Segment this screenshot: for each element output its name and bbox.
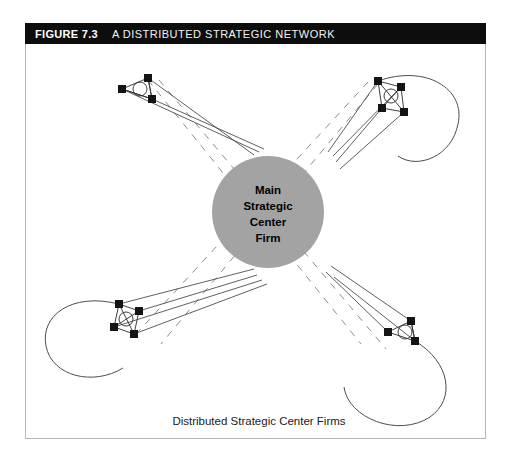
cluster-top-right bbox=[374, 77, 408, 116]
figure-number: FIGURE 7.3 bbox=[35, 28, 98, 40]
edge-hub-topleft-3 bbox=[152, 99, 264, 149]
node-bottom-left-4 bbox=[130, 330, 138, 338]
cluster-top-left-inner-circle bbox=[133, 82, 147, 96]
loop-topright bbox=[378, 76, 459, 162]
figure-root: FIGURE 7.3 A DISTRIBUTED STRATEGIC NETWO… bbox=[0, 0, 511, 463]
center-label-line-4: Firm bbox=[256, 232, 281, 244]
edge-hub-bottomright-2 bbox=[331, 266, 411, 321]
node-top-left-2 bbox=[118, 85, 126, 93]
edge-hub-bottomright-1 bbox=[326, 272, 388, 332]
edge-hub-bottomleft-3 bbox=[114, 280, 262, 327]
center-label-line-2: Strategic bbox=[243, 200, 293, 212]
edge-hub-bottomleft-4 bbox=[134, 284, 267, 334]
edge-hub-bottomright-3 bbox=[334, 277, 415, 341]
cluster-top-left-edge-a bbox=[122, 89, 152, 99]
node-top-left-1 bbox=[144, 74, 152, 82]
node-bottom-right-2 bbox=[384, 328, 392, 336]
edge-hub-bottomleft-2 bbox=[139, 275, 257, 311]
figure-header-bar: FIGURE 7.3 A DISTRIBUTED STRATEGIC NETWO… bbox=[25, 23, 486, 44]
node-bottom-left-3 bbox=[110, 323, 118, 331]
center-hub-circle bbox=[212, 156, 324, 268]
loop-bottomright bbox=[344, 341, 446, 426]
node-top-right-2 bbox=[397, 83, 405, 91]
loop-bottomleft bbox=[45, 301, 123, 377]
center-label-line-3: Center bbox=[250, 216, 287, 228]
edge-hub-topleft-1 bbox=[148, 78, 254, 155]
node-top-right-3 bbox=[378, 104, 386, 112]
edge-hub-bottomleft-1 bbox=[119, 269, 254, 304]
node-bottom-right-1 bbox=[407, 317, 415, 325]
node-bottom-left-1 bbox=[115, 300, 123, 308]
node-top-right-4 bbox=[400, 108, 408, 116]
node-bottom-left-2 bbox=[135, 307, 143, 315]
edge-hub-topright-3 bbox=[336, 108, 382, 162]
node-bottom-right-3 bbox=[411, 337, 419, 345]
cluster-bottom-right-inner-circle bbox=[398, 325, 412, 339]
cluster-top-left bbox=[118, 74, 156, 103]
network-svg: Main Strategic Center Firm bbox=[26, 44, 485, 438]
diagram-caption: Distributed Strategic Center Firms bbox=[172, 415, 345, 427]
center-label-line-1: Main bbox=[255, 184, 281, 196]
network-diagram: Main Strategic Center Firm bbox=[26, 44, 485, 438]
edge-hub-topleft-2 bbox=[122, 89, 259, 152]
node-top-right-1 bbox=[374, 77, 382, 85]
node-top-left-3 bbox=[148, 95, 156, 103]
figure-title: A DISTRIBUTED STRATEGIC NETWORK bbox=[112, 28, 335, 40]
